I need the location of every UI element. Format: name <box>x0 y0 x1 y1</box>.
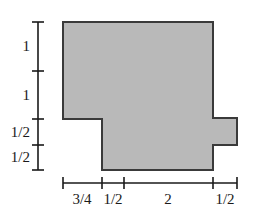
horizontal-segment-label-4: 1/2 <box>215 192 234 207</box>
vertical-segment-label-1: 1 <box>0 39 30 54</box>
horizontal-segment-label-3: 2 <box>164 192 172 207</box>
vertical-ruler <box>32 22 44 170</box>
vertical-segment-label-4: 1/2 <box>0 150 30 165</box>
horizontal-ruler <box>63 177 237 189</box>
horizontal-segment-label-2: 1/2 <box>103 192 122 207</box>
figure-canvas <box>0 0 254 219</box>
vertical-segment-label-3: 1/2 <box>0 125 30 140</box>
vertical-segment-label-2: 1 <box>0 88 30 103</box>
geometry-figure: 1 1 1/2 1/2 3/4 1/2 2 1/2 <box>0 0 254 219</box>
polygon-shape <box>63 22 237 170</box>
horizontal-segment-label-1: 3/4 <box>72 192 91 207</box>
